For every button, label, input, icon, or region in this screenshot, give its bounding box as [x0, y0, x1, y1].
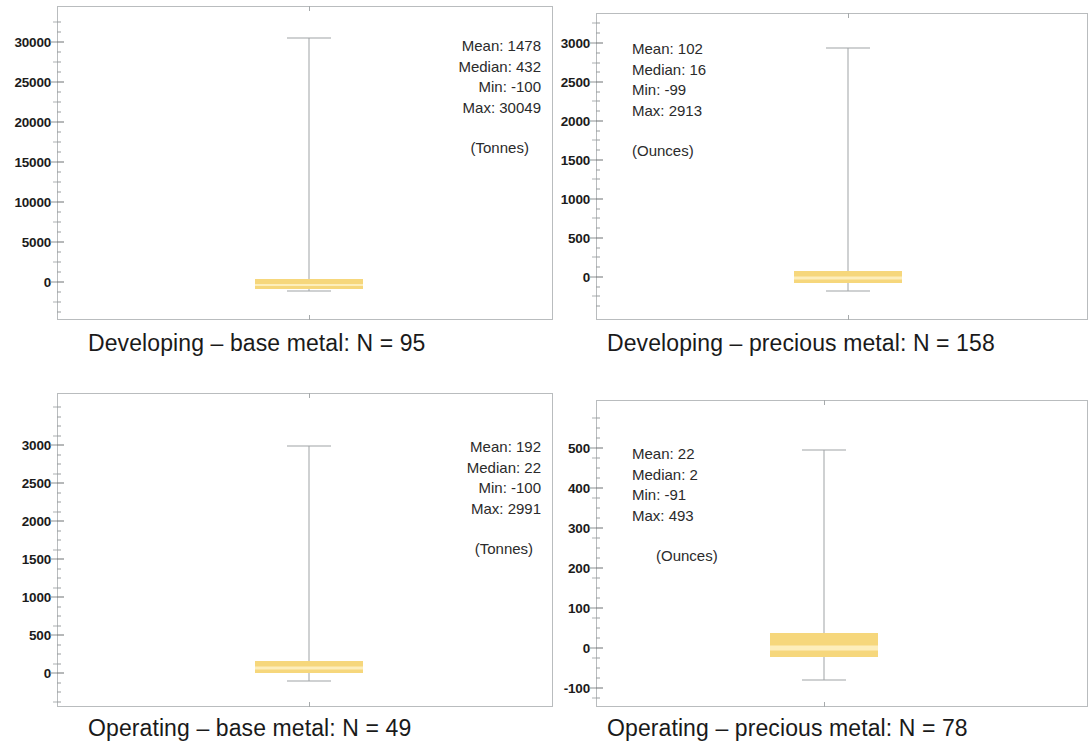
ytick-minor-right: [53, 407, 57, 408]
ytick-major-right: [589, 648, 596, 649]
ytick-label: 1500: [22, 552, 51, 567]
ytick-minor-right: [53, 474, 57, 475]
ytick-minor: [596, 518, 600, 519]
ytick-minor: [596, 508, 600, 509]
caption-operating-precious-metal: Operating – precious metal: N = 78: [607, 715, 968, 742]
ytick-major: [57, 122, 64, 123]
xtick-top: [309, 393, 310, 398]
xtick-top: [309, 6, 310, 11]
xtick-top: [848, 13, 849, 18]
ytick-minor: [57, 616, 61, 617]
ytick-minor-right: [53, 62, 57, 63]
ytick-major-right: [589, 277, 596, 278]
boxplot-median: [255, 284, 363, 286]
stats-annotation-operating-base-metal: Mean: 192 Median: 22 Min: -100 Max: 2991…: [467, 437, 541, 560]
ytick-minor: [57, 172, 61, 173]
ytick-minor: [57, 262, 61, 263]
ytick-major: [596, 568, 603, 569]
ytick-minor: [596, 658, 600, 659]
boxplot-median: [770, 646, 878, 651]
ytick-label: 15000: [14, 155, 51, 170]
stat-max: Max: 30049: [463, 99, 541, 116]
ytick-minor-right: [53, 102, 57, 103]
ytick-minor: [596, 478, 600, 479]
ytick-major: [596, 648, 603, 649]
ytick-minor: [57, 578, 61, 579]
ytick-major: [596, 488, 603, 489]
ytick-minor: [596, 678, 600, 679]
ytick-major-right: [589, 160, 596, 161]
ytick-minor: [57, 272, 61, 273]
ytick-major: [57, 521, 64, 522]
ytick-minor: [57, 212, 61, 213]
ytick-minor: [596, 33, 600, 34]
ytick-minor: [596, 538, 600, 539]
ytick-label: 200: [568, 561, 590, 576]
ytick-major-right: [50, 521, 57, 522]
stat-mean: Mean: 192: [470, 438, 541, 455]
ytick-minor: [57, 182, 61, 183]
ytick-minor-right: [53, 302, 57, 303]
ytick-minor: [596, 638, 600, 639]
stats-annotation-operating-precious-metal: Mean: 22 Median: 2 Min: -91 Max: 493 (Ou…: [632, 444, 718, 567]
ytick-major: [596, 43, 603, 44]
ytick-minor-right: [53, 588, 57, 589]
ytick-label: 2000: [22, 514, 51, 529]
ytick-major: [596, 160, 603, 161]
ytick-minor-right: [592, 218, 596, 219]
ytick-major-right: [589, 82, 596, 83]
unit-label: (Tonnes): [458, 138, 541, 159]
ytick-major-right: [589, 43, 596, 44]
ytick-major: [596, 277, 603, 278]
ytick-label: 1500: [561, 153, 590, 168]
ytick-major-right: [50, 122, 57, 123]
ytick-minor: [57, 645, 61, 646]
ytick-minor-right: [592, 458, 596, 459]
ytick-minor: [596, 668, 600, 669]
ytick-minor: [596, 618, 600, 619]
ytick-minor: [57, 474, 61, 475]
ytick-major-right: [589, 488, 596, 489]
ytick-major-right: [589, 199, 596, 200]
ytick-minor: [57, 62, 61, 63]
ytick-minor: [57, 112, 61, 113]
xtick-bottom: [309, 702, 310, 707]
ytick-major-right: [589, 238, 596, 239]
boxplot-lower-cap: [287, 291, 331, 292]
ytick-minor-right: [53, 512, 57, 513]
ytick-minor: [57, 664, 61, 665]
ytick-minor: [57, 292, 61, 293]
ytick-major: [596, 199, 603, 200]
ytick-minor: [596, 548, 600, 549]
stat-median: Median: 16: [632, 61, 706, 78]
ytick-minor: [57, 692, 61, 693]
xtick-bottom: [848, 315, 849, 320]
xtick-top: [824, 400, 825, 405]
caption-operating-base-metal: Operating – base metal: N = 49: [88, 715, 411, 742]
ytick-major-right: [50, 42, 57, 43]
stats-annotation-developing-precious-metal: Mean: 102 Median: 16 Min: -99 Max: 2913 …: [632, 39, 706, 162]
ytick-major: [596, 82, 603, 83]
ytick-minor: [57, 142, 61, 143]
ytick-minor: [596, 498, 600, 499]
ytick-major: [57, 242, 64, 243]
ytick-minor-right: [592, 23, 596, 24]
ytick-major: [596, 121, 603, 122]
xtick-bottom: [824, 702, 825, 707]
ytick-minor-right: [592, 179, 596, 180]
ytick-label: 300: [568, 521, 590, 536]
ytick-minor: [57, 302, 61, 303]
ytick-major: [57, 445, 64, 446]
ytick-minor: [596, 92, 600, 93]
stat-mean: Mean: 102: [632, 40, 703, 57]
boxplot-upper-cap: [802, 450, 846, 451]
ytick-major: [596, 528, 603, 529]
boxplot-whisker: [848, 48, 849, 291]
panel-developing-base-metal: 30000 25000 20000 15000 10000 5000 0: [57, 6, 553, 320]
ytick-major: [57, 282, 64, 283]
ytick-major-right: [50, 559, 57, 560]
ytick-major-right: [589, 688, 596, 689]
xtick-bottom: [309, 315, 310, 320]
unit-label: (Ounces): [632, 546, 718, 567]
ytick-minor: [596, 438, 600, 439]
